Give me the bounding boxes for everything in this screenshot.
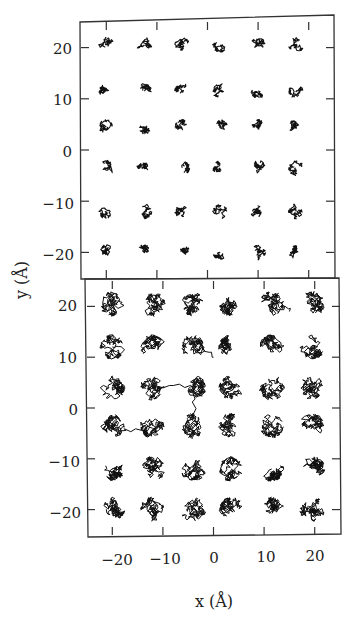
particle-trajectory — [105, 465, 123, 481]
top-ytick-10: 10 — [53, 91, 72, 109]
particle-trajectory — [101, 415, 124, 437]
bot-ytick-10: 10 — [58, 349, 77, 367]
particle-trajectory — [304, 457, 325, 475]
top-ytick-neg20: −20 — [42, 246, 74, 264]
particle-trajectory — [262, 415, 284, 438]
particle-trajectory — [289, 161, 302, 176]
xtick-neg20: −20 — [101, 551, 133, 569]
bottom-panel-frame — [85, 278, 341, 537]
particle-trajectory — [301, 377, 322, 399]
particle-trajectory — [262, 292, 284, 315]
particle-trajectory — [289, 87, 303, 97]
particle-trajectory — [182, 336, 205, 355]
particle-trajectory — [137, 38, 151, 48]
x-axis-label: x (Å) — [195, 591, 233, 611]
particle-trajectory — [137, 163, 148, 170]
particle-trajectory — [141, 497, 164, 521]
top-ytick-0: 0 — [62, 143, 72, 161]
particle-trajectory — [260, 377, 285, 399]
top-panel-ticks — [81, 22, 334, 278]
particle-trajectory — [213, 43, 225, 52]
bottom-panel — [85, 278, 341, 537]
particle-trajectory — [254, 245, 265, 259]
figure: 20 10 0 −10 −20 20 10 0 −10 −20 −20 −10 … — [0, 0, 354, 617]
particle-trajectory — [100, 376, 125, 399]
top-ytick-20: 20 — [53, 40, 72, 58]
particle-trajectory — [264, 466, 284, 481]
particle-trajectory — [220, 457, 242, 481]
particle-trajectory — [217, 120, 227, 129]
particle-trajectory — [290, 246, 298, 258]
particle-trajectory — [182, 460, 205, 480]
particle-trajectory — [140, 126, 150, 134]
particle-trajectory — [264, 497, 283, 513]
particle-trajectory — [182, 162, 190, 173]
x-tick-labels: −20 −10 0 10 20 — [101, 547, 324, 569]
particle-trajectory — [289, 204, 303, 219]
particle-trajectory — [220, 297, 237, 315]
bottom-panel-trajectories — [100, 292, 325, 522]
particle-trajectory — [99, 85, 109, 94]
bottom-panel-ticks — [87, 281, 340, 535]
particle-trajectory — [254, 161, 264, 173]
particle-trajectory — [142, 204, 152, 218]
particle-trajectory — [99, 38, 113, 48]
bottom-y-tick-labels: 20 10 0 −10 −20 — [48, 297, 81, 522]
particle-trajectory — [290, 121, 299, 131]
particle-trajectory — [213, 84, 223, 97]
particle-trajectory — [175, 38, 189, 50]
top-ytick-neg10: −10 — [42, 195, 74, 213]
top-panel-trajectories — [99, 38, 303, 260]
xtick-0: 0 — [209, 549, 219, 567]
xtick-neg10: −10 — [149, 550, 181, 568]
particle-trajectory — [101, 292, 124, 316]
particle-trajectory — [141, 335, 164, 354]
bot-ytick-20: 20 — [58, 297, 77, 315]
particle-trajectory — [104, 497, 125, 518]
particle-trajectory — [213, 205, 227, 219]
particle-trajectory — [175, 120, 186, 130]
particle-trajectory — [300, 335, 323, 359]
top-y-tick-labels: 20 10 0 −10 −20 — [42, 40, 74, 264]
xtick-10: 10 — [256, 548, 275, 566]
particle-trajectory — [289, 38, 303, 51]
particle-trajectory — [300, 499, 324, 522]
particle-trajectory — [219, 498, 242, 516]
particle-trajectory — [100, 120, 113, 132]
particle-trajectory — [251, 206, 261, 217]
particle-trajectory — [141, 84, 151, 92]
bot-ytick-neg20: −20 — [49, 504, 81, 522]
particle-trajectory — [252, 39, 265, 48]
particle-trajectory — [188, 376, 206, 397]
particle-trajectory — [145, 294, 165, 316]
particle-trajectory — [175, 84, 186, 92]
particle-trajectory — [183, 293, 203, 316]
particle-trajectory — [103, 160, 112, 172]
xtick-20: 20 — [305, 547, 324, 565]
particle-trajectory — [219, 413, 236, 437]
y-axis-label: y (Å) — [11, 261, 31, 300]
bot-ytick-0: 0 — [68, 401, 78, 419]
top-panel — [80, 15, 335, 279]
particle-trajectory — [251, 90, 262, 98]
particle-trajectory — [139, 245, 148, 252]
particle-trajectory — [261, 335, 284, 352]
particle-trajectory — [100, 335, 125, 359]
particle-trajectory — [141, 377, 164, 400]
bot-ytick-neg10: −10 — [48, 453, 80, 471]
particle-trajectory — [213, 161, 221, 172]
particle-trajectory — [182, 498, 205, 520]
particle-trajectory — [99, 208, 110, 218]
particle-trajectory — [219, 336, 232, 355]
particle-trajectory — [302, 414, 325, 433]
particle-trajectory — [252, 120, 262, 130]
top-panel-frame — [80, 15, 335, 279]
particle-trajectory — [175, 207, 186, 217]
particle-trajectory — [214, 252, 224, 259]
particle-trajectory — [181, 247, 189, 254]
particle-trajectory — [143, 457, 164, 479]
particle-trajectory — [219, 376, 242, 399]
particle-trajectory — [306, 292, 324, 314]
particle-trajectory — [101, 245, 111, 255]
